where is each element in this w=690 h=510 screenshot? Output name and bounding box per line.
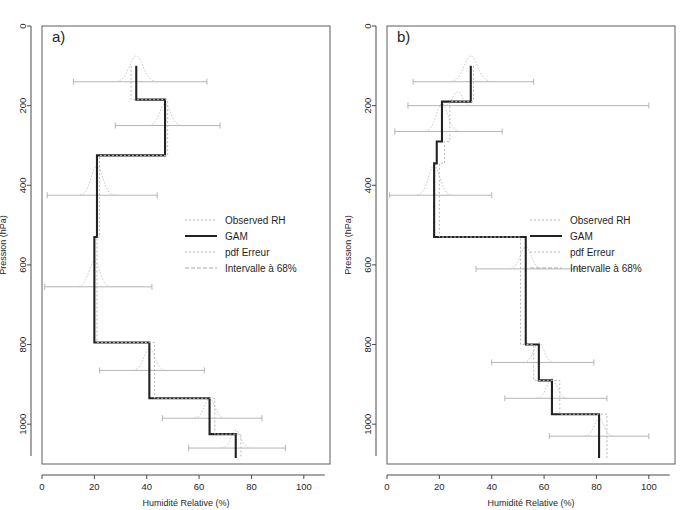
x-tick-label: 100: [296, 481, 312, 492]
y-tick-label: 200: [17, 98, 28, 114]
y-tick-label: 0: [362, 23, 373, 28]
figure-container: 020406080100Humidité Relative (%)0200400…: [0, 0, 690, 510]
panel-label: b): [397, 28, 410, 45]
x-tick-label: 40: [486, 481, 497, 492]
x-tick-label: 20: [434, 481, 445, 492]
panel-b-svg: 020406080100Humidité Relative (%)0200400…: [345, 0, 690, 510]
panel-label: a): [52, 28, 65, 45]
y-tick-label: 400: [17, 177, 28, 193]
legend-label: GAM: [225, 231, 248, 242]
gam-series-line: [434, 66, 599, 458]
x-tick-label: 60: [539, 481, 550, 492]
x-tick-label: 80: [591, 481, 602, 492]
panel-a: 020406080100Humidité Relative (%)0200400…: [0, 0, 345, 510]
y-tick-label: 200: [362, 98, 373, 114]
legend-label: Intervalle à 68%: [570, 263, 642, 274]
legend-label: pdf Erreur: [570, 247, 615, 258]
x-tick-label: 80: [246, 481, 257, 492]
x-tick-label: 0: [384, 481, 389, 492]
y-tick-label: 400: [362, 177, 373, 193]
y-tick-label: 600: [362, 257, 373, 273]
observed-rh-series-line: [439, 66, 607, 458]
y-axis-title: Pression (hPa): [0, 215, 8, 275]
panel-b: 020406080100Humidité Relative (%)0200400…: [345, 0, 690, 510]
legend-label: Intervalle à 68%: [225, 263, 297, 274]
pdf-erreur-curve: [444, 92, 472, 106]
y-tick-label: 1000: [362, 414, 373, 435]
x-axis-title: Humidité Relative (%): [487, 498, 574, 508]
legend-label: Observed RH: [570, 215, 631, 226]
panel-b-content: 020406080100Humidité Relative (%)0200400…: [345, 23, 675, 508]
legend-label: GAM: [570, 231, 593, 242]
x-axis-title: Humidité Relative (%): [142, 498, 229, 508]
y-tick-label: 0: [17, 23, 28, 28]
x-tick-label: 100: [641, 481, 657, 492]
y-tick-label: 600: [17, 257, 28, 273]
y-axis-title: Pression (hPa): [345, 215, 353, 275]
y-tick-label: 800: [362, 337, 373, 353]
y-tick-label: 1000: [17, 414, 28, 435]
panel-a-content: 020406080100Humidité Relative (%)0200400…: [0, 23, 330, 508]
panel-a-svg: 020406080100Humidité Relative (%)0200400…: [0, 0, 345, 510]
x-tick-label: 0: [39, 481, 44, 492]
x-tick-label: 60: [194, 481, 205, 492]
legend-label: Observed RH: [225, 215, 286, 226]
x-tick-label: 20: [89, 481, 100, 492]
x-tick-label: 40: [141, 481, 152, 492]
legend-label: pdf Erreur: [225, 247, 270, 258]
y-tick-label: 800: [17, 337, 28, 353]
